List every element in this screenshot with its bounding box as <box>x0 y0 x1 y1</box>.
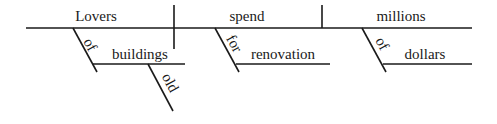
sentence-diagram: Lovers spend millions of buildings old f… <box>0 0 497 124</box>
prep-object-word: buildings <box>112 46 168 62</box>
verb-word: spend <box>230 8 265 24</box>
preposition-word: for <box>223 32 245 55</box>
prep-object-word: renovation <box>251 46 316 62</box>
prep-phrase-for-renovation: for renovation <box>215 28 330 72</box>
prep-object-word: dollars <box>405 46 446 62</box>
preposition-word: of <box>372 34 392 53</box>
prep-phrase-of-dollars: of dollars <box>362 28 472 72</box>
preposition-word: of <box>80 35 100 54</box>
object-word: millions <box>376 8 425 24</box>
prep-phrase-of-buildings: of buildings old <box>73 28 185 111</box>
subject-word: Lovers <box>75 8 117 24</box>
